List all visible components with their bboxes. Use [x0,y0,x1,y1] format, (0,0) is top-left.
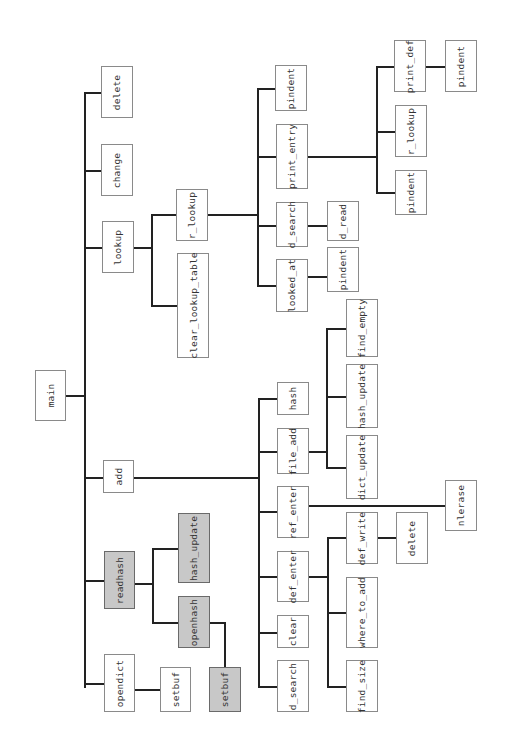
node-print-entry: print_entry [276,124,308,189]
node-def-write: def_write [346,512,378,564]
connector-line [258,686,278,688]
node-clear: clear [277,615,309,648]
node-opendict: opendict [104,654,135,712]
node-def-enter: def_enter [277,551,309,602]
connector-line [377,537,397,539]
node-label: r_lookup [406,107,417,154]
connector-line [84,92,86,310]
node-d-search-2: d_search [277,660,309,712]
node-label: print_def [405,39,416,92]
node-r-lookup-2: r_lookup [395,105,427,157]
connector-line [307,156,377,158]
node-label: setbuf [170,672,181,708]
connector-line [308,451,328,453]
connector-line [308,576,329,578]
connector-line [133,247,152,249]
node-change: change [101,144,133,196]
node-label: print_entry [287,124,298,189]
connector-line [376,66,378,193]
connector-line [326,328,347,330]
connector-line [84,300,86,688]
node-d-read: d_read [327,201,359,241]
node-main: main [35,370,66,421]
node-label: openhash [189,598,200,645]
call-graph-diagram: maindeletechangelookupaddreadhashopendic… [0,0,505,755]
connector-line [258,451,278,453]
connector-line [376,66,395,68]
node-label: hash_update [357,363,368,428]
connector-line [66,395,85,397]
node-label: pindent [406,172,417,213]
node-find-empty: find_empty [346,299,378,357]
node-label: ref_enter [288,485,299,538]
node-setbuf-2: setbuf [209,667,241,712]
connector-line [327,612,347,614]
node-label: r_lookup [187,191,198,238]
node-label: main [45,384,56,408]
node-label: hash [288,387,299,411]
connector-line [84,580,105,582]
node-label: lookup [113,229,124,265]
node-print-def: print_def [394,40,426,92]
node-hash-update-1: hash_update [178,513,210,583]
connector-line [326,467,347,469]
node-label: find_size [357,659,368,712]
connector-line [151,214,153,306]
connector-line [134,583,153,585]
node-label: hash_update [189,515,200,580]
connector-line [376,131,396,133]
connector-line [258,511,278,513]
connector-line [308,505,446,507]
node-label: pindent [456,45,467,86]
connector-line [134,477,259,479]
node-label: d_search [288,662,299,709]
connector-line [376,192,396,194]
node-label: pindent [338,249,349,290]
node-r-lookup-1: r_lookup [176,189,208,241]
node-where-to-add: where_to_add [346,577,378,648]
node-label: def_enter [288,550,299,603]
node-label: clear [287,617,298,647]
connector-line [258,576,278,578]
connector-line [327,686,347,688]
connector-line [257,88,276,90]
node-label: delete [407,520,418,556]
node-label: pindent [286,67,297,108]
node-label: def_write [357,511,368,564]
node-readhash: readhash [104,551,135,609]
node-pindent-1: pindent [275,65,307,111]
connector-line [84,477,104,479]
node-pindent-2: pindent [327,247,359,292]
connector-line [207,214,259,216]
connector-line [257,285,277,287]
node-ref-enter: ref_enter [277,486,309,538]
connector-line [151,214,177,216]
node-hash-update-2: hash_update [346,364,378,428]
connector-line [326,328,328,468]
node-lookup: lookup [102,221,134,273]
node-delete: delete [101,66,133,118]
node-pindent-3: pindent [395,170,427,215]
node-label: nlerase [456,485,467,526]
connector-line [257,156,277,158]
connector-line [84,92,102,94]
node-setbuf-1: setbuf [160,667,191,712]
node-label: delete [112,74,123,110]
node-hash: hash [277,382,309,415]
connector-line [258,398,260,688]
node-dict-update: dict_update [346,435,378,499]
node-label: add [113,468,124,486]
connector-line [258,398,278,400]
node-label: change [112,152,123,188]
node-clear-lookup-table: clear_lookup_table [177,253,209,358]
connector-line [152,548,179,550]
node-label: d_search [287,201,298,248]
node-add: add [103,460,134,493]
connector-line [224,622,226,668]
node-label: find_empty [357,298,368,357]
node-d-search-1: d_search [276,202,308,247]
node-openhash: openhash [178,596,210,648]
node-label: clear_lookup_table [188,252,199,359]
node-delete-2: delete [396,512,428,564]
connector-line [258,632,278,634]
